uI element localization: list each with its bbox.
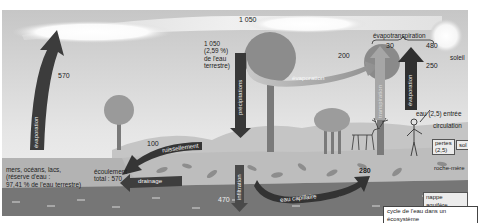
circulation-label: circulation	[433, 122, 462, 129]
left-evaporation-label: évaporation	[33, 117, 39, 148]
water-input-label: eau (2,5) entrée	[416, 110, 461, 117]
left-evaporation-value: 570	[58, 72, 70, 79]
transpiration-label: transpiration	[377, 85, 383, 118]
mid-evaporation-value: 200	[338, 52, 350, 59]
drainage-label: drainage	[138, 177, 162, 184]
mid-evaporation-label: évaporation	[292, 74, 324, 81]
sun-label: soleil	[450, 54, 465, 61]
ocean-reservoir-label: mers, océans, lacs, (réserve d'eau : 97,…	[6, 166, 81, 188]
bedrock-layer-label: roche-mère	[432, 164, 467, 172]
total-outflow-label: écoulement total : 570	[94, 168, 127, 183]
infiltration-label: infiltration	[236, 174, 242, 200]
runoff-value: 100	[147, 140, 159, 147]
evapotranspiration-label: évapotranspiration	[373, 32, 426, 39]
top-flow-value: 1 050	[239, 16, 257, 23]
infiltration-value: 470	[218, 196, 230, 203]
capillary-water-value: 280	[359, 167, 371, 174]
right-evaporation-label: évaporation	[407, 75, 413, 106]
diagram-caption: cycle de l'eau dans un écosystème	[383, 206, 478, 223]
losses-label: pertes (2,5)	[432, 139, 455, 155]
precipitation-label: précipitations	[237, 80, 243, 115]
precipitation-value: 1 050 (2,59 %) de l'eau terrestre)	[204, 40, 230, 70]
soil-layer-label: sol	[456, 140, 468, 150]
right-evaporation-value: 250	[426, 62, 438, 69]
evapotranspiration-total-value: 480	[426, 42, 438, 49]
water-cycle-diagram: 1 050 570 évaporation mers, océans, lacs…	[2, 10, 468, 216]
transpiration-value: 30	[386, 42, 394, 49]
